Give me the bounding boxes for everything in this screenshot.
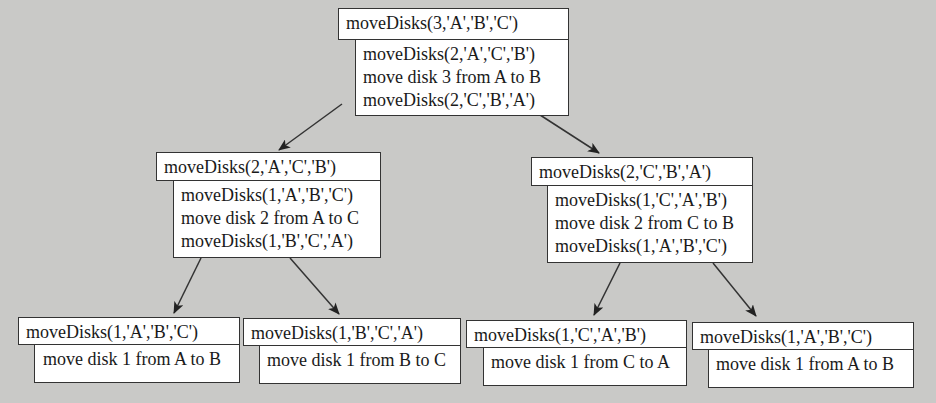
edge-right-leaf4 [713,263,756,316]
step: move disk 1 from A to B [716,353,913,376]
step: moveDisks(1,'A','B','C') [555,235,752,258]
edge-root-left [279,104,342,150]
edge-root-right [537,113,599,153]
step: move disk 1 from C to A [491,351,686,374]
step: moveDisks(2,'A','C','B') [363,43,568,66]
edge-right-leaf3 [594,263,620,315]
call-label: moveDisks(2,'C','B','A') [539,162,711,182]
node-leaf2-steps: move disk 1 from B to C [259,345,461,384]
call-label: moveDisks(1,'C','A','B') [474,325,646,345]
node-root-steps: moveDisks(2,'A','C','B') move disk 3 fro… [355,39,569,116]
node-left-call: moveDisks(2,'A','C','B') [156,152,381,181]
step: move disk 2 from C to B [555,212,752,235]
node-right-steps: moveDisks(1,'C','A','B') move disk 2 fro… [547,185,753,263]
call-label: moveDisks(1,'A','B','C') [700,327,872,347]
step: moveDisks(1,'C','A','B') [555,189,752,212]
call-label: moveDisks(1,'A','B','C') [26,322,198,342]
node-leaf4-steps: move disk 1 from A to B [708,349,914,388]
call-label: moveDisks(2,'A','C','B') [164,157,336,177]
edge-left-leaf1 [174,258,201,313]
step: move disk 1 from A to B [43,348,239,371]
node-leaf1-call: moveDisks(1,'A','B','C') [18,317,240,345]
step: moveDisks(1,'B','C','A') [181,230,380,253]
node-leaf3-steps: move disk 1 from C to A [483,347,687,386]
edge-left-leaf2 [290,258,339,314]
node-right-call: moveDisks(2,'C','B','A') [531,157,753,186]
step: move disk 2 from A to C [181,207,380,230]
step: move disk 3 from A to B [363,66,568,89]
node-left-steps: moveDisks(1,'A','B','C') move disk 2 fro… [173,180,381,258]
recursion-tree-diagram: moveDisks(3,'A','B','C') moveDisks(2,'A'… [0,0,936,403]
step: move disk 1 from B to C [267,349,460,372]
call-label: moveDisks(3,'A','B','C') [346,13,518,33]
step: moveDisks(1,'A','B','C') [181,184,380,207]
node-leaf2-call: moveDisks(1,'B','C','A') [243,318,461,346]
call-label: moveDisks(1,'B','C','A') [251,323,423,343]
node-leaf4-call: moveDisks(1,'A','B','C') [692,322,914,350]
node-root-call: moveDisks(3,'A','B','C') [338,8,569,40]
node-leaf3-call: moveDisks(1,'C','A','B') [466,320,687,348]
step: moveDisks(2,'C','B','A') [363,89,568,112]
node-leaf1-steps: move disk 1 from A to B [34,344,240,383]
